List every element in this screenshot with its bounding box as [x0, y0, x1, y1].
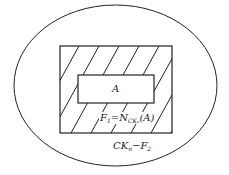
label-complement: CKn−F2 — [113, 140, 151, 152]
label-neighborhood: F1=NCKₙ(A) — [99, 112, 155, 124]
label-A: A — [112, 83, 119, 94]
set-diagram: A F1=NCKₙ(A) CKn−F2 — [0, 0, 229, 175]
